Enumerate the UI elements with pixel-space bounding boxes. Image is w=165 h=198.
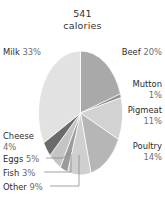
slice-label-cheese-pct: 4% bbox=[3, 142, 34, 153]
slice-label-other-pct: 9% bbox=[29, 182, 42, 192]
slice-label-fish-pct: 3% bbox=[22, 168, 35, 178]
slice-label-eggs-pct: 5% bbox=[26, 154, 39, 164]
slice-label-other-name: Other bbox=[3, 182, 29, 192]
slice-label-cheese: Cheese 4% bbox=[3, 131, 34, 152]
slice-label-other: Other 9% bbox=[3, 182, 43, 193]
pie-slices bbox=[39, 51, 123, 175]
slice-label-pigmeat-pct: 11% bbox=[128, 116, 162, 127]
slice-label-pigmeat: Pigmeat 11% bbox=[128, 105, 162, 126]
slice-label-milk-name: Milk bbox=[3, 47, 22, 57]
slice-label-eggs-name: Eggs bbox=[3, 154, 26, 164]
slice-label-milk: Milk 33% bbox=[3, 47, 41, 58]
slice-label-milk-pct: 33% bbox=[22, 47, 41, 57]
slice-label-fish-name: Fish bbox=[3, 168, 22, 178]
slice-label-fish: Fish 3% bbox=[3, 168, 35, 179]
slice-label-eggs: Eggs 5% bbox=[3, 154, 39, 165]
slice-label-poultry: Poultry 14% bbox=[133, 141, 162, 162]
slice-label-beef: Beef 20% bbox=[122, 47, 162, 58]
slice-label-poultry-name: Poultry bbox=[133, 141, 162, 152]
slice-label-pigmeat-name: Pigmeat bbox=[128, 105, 162, 116]
slice-label-mutton-pct: 1% bbox=[132, 90, 162, 101]
slice-label-mutton-name: Mutton bbox=[132, 79, 162, 90]
slice-label-beef-name: Beef bbox=[122, 47, 144, 57]
slice-label-cheese-name: Cheese bbox=[3, 131, 34, 142]
slice-label-poultry-pct: 14% bbox=[133, 152, 162, 163]
pie-chart-figure: 541 calories Milk 33% Beef 20% Mutton 1%… bbox=[0, 0, 165, 198]
slice-label-beef-pct: 20% bbox=[143, 47, 162, 57]
slice-label-mutton: Mutton 1% bbox=[132, 79, 162, 100]
